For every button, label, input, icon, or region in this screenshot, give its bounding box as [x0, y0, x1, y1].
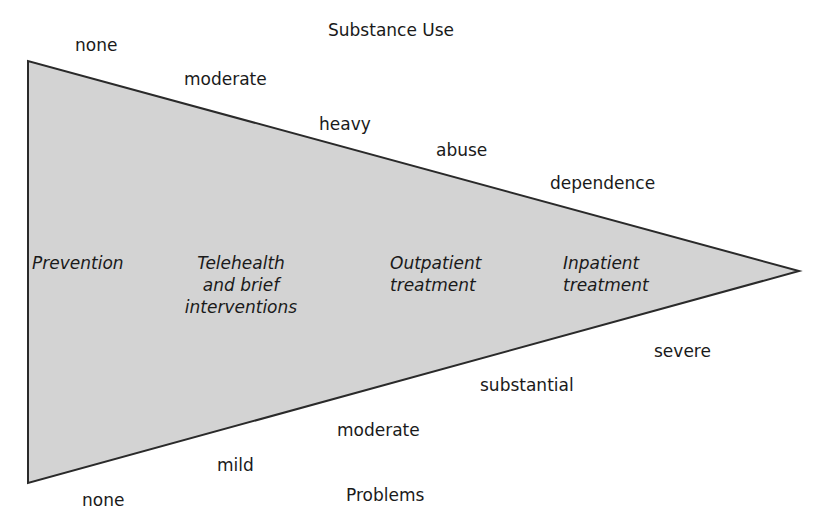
problem-level-mild: mild	[217, 455, 254, 475]
zone-prevention: Prevention	[32, 252, 124, 274]
substance-level-heavy: heavy	[319, 114, 371, 134]
problem-level-moderate: moderate	[337, 420, 420, 440]
problem-level-substantial: substantial	[480, 375, 574, 395]
problem-level-severe: severe	[654, 341, 711, 361]
substance-use-title: Substance Use	[328, 20, 454, 40]
zone-outpatient-treatment: Outpatient treatment	[390, 252, 481, 296]
substance-level-abuse: abuse	[436, 140, 487, 160]
problem-level-none: none	[82, 490, 124, 510]
substance-level-moderate: moderate	[184, 69, 267, 89]
substance-level-dependence: dependence	[550, 173, 655, 193]
substance-level-none: none	[75, 35, 117, 55]
zone-inpatient-treatment: Inpatient treatment	[563, 252, 649, 296]
zone-telehealth-brief-interventions: Telehealth and brief interventions	[176, 252, 306, 318]
problems-title: Problems	[346, 485, 424, 505]
